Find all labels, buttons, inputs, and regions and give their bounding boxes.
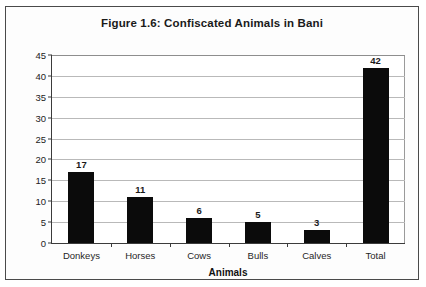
bar-value-label: 6 bbox=[196, 205, 201, 216]
bar-donkeys: 17 bbox=[68, 172, 94, 243]
gridline bbox=[52, 139, 405, 140]
gridline bbox=[52, 180, 405, 181]
x-tick-label-horses: Horses bbox=[125, 250, 155, 261]
y-tick-label: 30 bbox=[35, 112, 46, 123]
y-tick-mark bbox=[48, 222, 52, 223]
gridline bbox=[52, 55, 405, 56]
gridline bbox=[52, 222, 405, 223]
y-tick-label: 35 bbox=[35, 91, 46, 102]
page-title: Figure 1.6: Confiscated Animals in Bani bbox=[6, 17, 418, 29]
x-tick-label-cows: Cows bbox=[187, 250, 211, 261]
x-tick-label-donkeys: Donkeys bbox=[63, 250, 100, 261]
gridline bbox=[52, 76, 405, 77]
x-tick-label-calves: Calves bbox=[302, 250, 331, 261]
y-tick-mark bbox=[48, 75, 52, 76]
y-tick-label: 20 bbox=[35, 154, 46, 165]
bar-calves: 3 bbox=[304, 230, 330, 243]
y-tick-mark bbox=[48, 55, 52, 56]
y-tick-mark bbox=[48, 201, 52, 202]
gridline bbox=[52, 118, 405, 119]
x-tick-mark bbox=[346, 243, 347, 247]
x-axis-title: Animals bbox=[51, 267, 405, 278]
y-tick-label: 15 bbox=[35, 175, 46, 186]
y-tick-mark bbox=[48, 180, 52, 181]
y-tick-label: 45 bbox=[35, 50, 46, 61]
plot-area: 051015202530354045 171165342 DonkeysHors… bbox=[51, 55, 405, 244]
x-tick-label-total: Total bbox=[366, 250, 386, 261]
y-tick-mark bbox=[48, 96, 52, 97]
bar-value-label: 42 bbox=[370, 55, 381, 66]
y-tick-mark bbox=[48, 159, 52, 160]
y-tick-mark bbox=[48, 243, 52, 244]
bar-horses: 11 bbox=[127, 197, 153, 243]
bar-total: 42 bbox=[363, 68, 389, 243]
gridline bbox=[52, 201, 405, 202]
y-tick-mark bbox=[48, 117, 52, 118]
bar-value-label: 17 bbox=[76, 159, 87, 170]
x-tick-mark bbox=[170, 243, 171, 247]
y-tick-label: 0 bbox=[41, 238, 46, 249]
x-tick-mark bbox=[229, 243, 230, 247]
x-tick-label-bulls: Bulls bbox=[248, 250, 269, 261]
figure-frame: Figure 1.6: Confiscated Animals in Bani … bbox=[5, 6, 419, 280]
y-tick-label: 10 bbox=[35, 196, 46, 207]
gridline bbox=[52, 159, 405, 160]
bar-value-label: 5 bbox=[255, 209, 260, 220]
x-tick-mark bbox=[287, 243, 288, 247]
y-tick-label: 25 bbox=[35, 133, 46, 144]
bar-cows: 6 bbox=[186, 218, 212, 243]
bar-value-label: 11 bbox=[135, 184, 145, 195]
y-tick-label: 40 bbox=[35, 70, 46, 81]
y-tick-mark bbox=[48, 138, 52, 139]
x-tick-mark bbox=[111, 243, 112, 247]
gridline bbox=[52, 97, 405, 98]
bar-bulls: 5 bbox=[245, 222, 271, 243]
y-tick-label: 5 bbox=[41, 217, 46, 228]
bar-value-label: 3 bbox=[314, 217, 319, 228]
plot-right-border bbox=[404, 55, 405, 243]
